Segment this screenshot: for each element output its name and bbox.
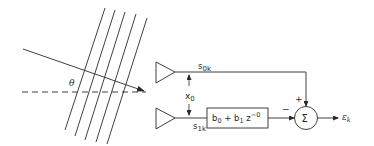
adaptive-beamformer-diagram: θ x0 s0k s1k b0 + b1 z−0 Σ + − εk bbox=[0, 0, 374, 146]
output-label: εk bbox=[342, 112, 351, 124]
upper-sensor-icon bbox=[156, 62, 175, 83]
upper-signal-label: s0k bbox=[198, 61, 212, 73]
minus-sign: − bbox=[282, 104, 290, 114]
sigma-symbol: Σ bbox=[302, 113, 308, 124]
plus-sign: + bbox=[295, 94, 303, 104]
lower-sensor-icon bbox=[156, 108, 175, 129]
spacing-label: x0 bbox=[185, 91, 195, 103]
incident-ray bbox=[23, 49, 144, 91]
angle-label: θ bbox=[69, 78, 75, 88]
lower-signal-label: s1k bbox=[193, 121, 207, 133]
filter-label: b0 + b1 z−0 bbox=[212, 111, 260, 125]
wavefront-lines bbox=[65, 8, 147, 144]
